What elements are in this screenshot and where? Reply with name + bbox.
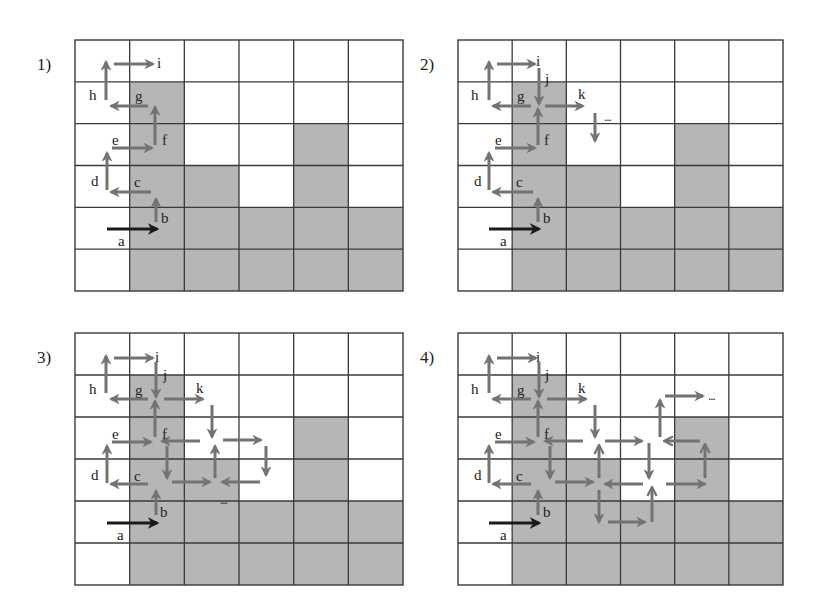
shaded-cell [675, 543, 729, 585]
step-label-e: e [112, 132, 119, 148]
step-label-g: g [135, 88, 143, 104]
shaded-cell [130, 249, 185, 291]
shaded-cell [184, 249, 239, 291]
step-label-d: d [91, 173, 99, 189]
step-label-h: h [471, 87, 479, 103]
shaded-cell [729, 501, 783, 543]
shaded-cell [675, 417, 729, 459]
shaded-cell [239, 501, 294, 543]
shaded-cell [184, 501, 239, 543]
shaded-cell [239, 249, 294, 291]
step-label-i: i [536, 349, 540, 365]
panel-label: 1) [37, 55, 51, 74]
step-label-d: d [474, 467, 482, 483]
shaded-cell [348, 207, 403, 249]
step-label-c: c [516, 174, 523, 190]
shaded-cell [184, 459, 239, 501]
step-label-i: i [155, 349, 159, 365]
shaded-cell [566, 207, 620, 249]
shaded-cell [130, 417, 185, 459]
shaded-cell [621, 249, 675, 291]
step-label-a: a [117, 527, 124, 543]
shaded-cell [239, 543, 294, 585]
shaded-cell [294, 166, 349, 208]
shaded-cell [675, 501, 729, 543]
step-label-h: h [471, 381, 479, 397]
shaded-cell [130, 543, 185, 585]
step-label-k: k [196, 380, 204, 396]
shaded-cell [512, 249, 566, 291]
step-label-f: f [162, 132, 167, 148]
shaded-cell [294, 249, 349, 291]
step-label-f: f [544, 132, 549, 148]
flood-fill-figure: 1)abcdefghi2)abcdefghijk...3)abcdefghijk… [0, 0, 821, 611]
step-label-b: b [161, 210, 169, 226]
step-label-j: j [544, 367, 549, 383]
step-label-k: k [578, 86, 586, 102]
step-label-h: h [89, 381, 97, 397]
shaded-cell [566, 249, 620, 291]
panel-label: 4) [420, 348, 434, 367]
panel-1: 1)abcdefghi [37, 40, 403, 291]
panel-4: 4)abcdefghijk... [420, 333, 783, 585]
step-label-e: e [495, 132, 502, 148]
shaded-cell [130, 124, 185, 166]
step-label-h: h [89, 87, 97, 103]
step-label-c: c [516, 468, 523, 484]
shaded-cell [294, 207, 349, 249]
shaded-cell [621, 207, 675, 249]
step-label-e: e [495, 426, 502, 442]
shaded-cell [348, 543, 403, 585]
step-label-e: e [112, 426, 119, 442]
step-label-a: a [500, 527, 507, 543]
step-label-f: f [162, 426, 167, 442]
step-label-g: g [517, 88, 525, 104]
shaded-cell [294, 417, 349, 459]
shaded-cell [675, 124, 729, 166]
panel-2: 2)abcdefghijk... [420, 40, 783, 291]
continuation-ellipsis: ... [604, 109, 612, 124]
shaded-cell [294, 501, 349, 543]
step-label-b: b [543, 504, 551, 520]
shaded-cell [675, 207, 729, 249]
continuation-ellipsis: ... [708, 388, 716, 403]
shaded-cell [675, 459, 729, 501]
step-label-g: g [135, 382, 143, 398]
panel-3: 3)abcdefghijk... [37, 333, 403, 585]
shaded-cell [729, 207, 783, 249]
step-label-j: j [162, 367, 167, 383]
shaded-cell [566, 459, 620, 501]
shaded-cell [184, 207, 239, 249]
shaded-cell [675, 166, 729, 208]
shaded-cell [239, 207, 294, 249]
shaded-cell [294, 543, 349, 585]
step-label-k: k [578, 380, 586, 396]
shaded-cell [294, 459, 349, 501]
step-label-c: c [134, 174, 141, 190]
step-label-c: c [134, 468, 141, 484]
panel-label: 3) [37, 348, 51, 367]
shaded-cell [184, 543, 239, 585]
step-label-i: i [536, 53, 540, 69]
step-label-f: f [544, 426, 549, 442]
step-label-b: b [543, 210, 551, 226]
shaded-cell [348, 249, 403, 291]
shaded-cell [184, 166, 239, 208]
shaded-cell [675, 249, 729, 291]
panel-label: 2) [420, 55, 434, 74]
step-label-g: g [517, 382, 525, 398]
step-label-a: a [500, 233, 507, 249]
step-label-b: b [160, 504, 168, 520]
continuation-ellipsis: ... [220, 492, 228, 507]
step-label-d: d [474, 173, 482, 189]
shaded-cell [348, 501, 403, 543]
shaded-cell [621, 543, 675, 585]
step-label-j: j [544, 71, 549, 87]
step-label-a: a [118, 233, 125, 249]
shaded-cell [729, 543, 783, 585]
shaded-cell [729, 249, 783, 291]
shaded-cell [566, 166, 620, 208]
shaded-cell [566, 543, 620, 585]
shaded-cell [512, 543, 566, 585]
shaded-cell [294, 124, 349, 166]
